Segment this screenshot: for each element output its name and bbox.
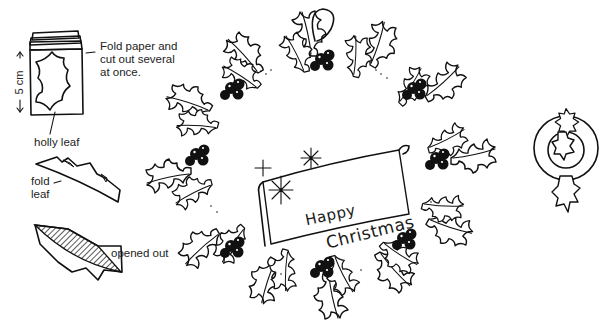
folded-paper-diagram — [0, 0, 609, 322]
christmas-wreath — [146, 9, 496, 319]
opened-leaf-drawing — [35, 225, 122, 280]
fold-instruction-line-3: at once. — [100, 66, 177, 79]
opened-out-label: opened out — [111, 247, 169, 260]
holly-leaf-label: holly leaf — [34, 136, 79, 149]
paper-stack-icon — [30, 31, 95, 134]
fold-instruction-label: Fold paper and cut out several at once. — [100, 40, 177, 79]
fold-leaf-label: fold leaf — [31, 175, 50, 201]
dimension-label: 5 cm — [13, 65, 26, 101]
fold-leaf-line-1: fold — [31, 175, 50, 188]
fold-leaf-line-2: leaf — [31, 188, 50, 201]
ring-ornament — [534, 109, 598, 212]
fold-instruction-line-2: cut out several — [100, 53, 177, 66]
fold-instruction-line-1: Fold paper and — [100, 40, 177, 53]
